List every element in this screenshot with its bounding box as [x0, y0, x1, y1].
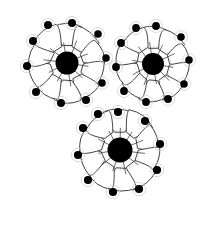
cell-nucleus [29, 37, 37, 45]
cell-nucleus [185, 56, 193, 64]
cell-nucleus [114, 108, 122, 116]
cell-nucleus [79, 124, 87, 132]
cell-nucleus [156, 140, 164, 148]
cell-nucleus [177, 33, 185, 41]
cell-nucleus [68, 19, 76, 27]
cell-nucleus [112, 63, 120, 71]
rosette-cluster-diagram [0, 0, 216, 226]
cell-nucleus [57, 99, 65, 107]
cell-nucleus [44, 21, 52, 29]
cell-nucleus [94, 110, 102, 118]
cell-nucleus [109, 188, 117, 196]
cell-nucleus [142, 98, 150, 106]
cell-nucleus [152, 22, 160, 30]
cell-nucleus [117, 39, 125, 47]
cell-nucleus [82, 96, 90, 104]
cell-nucleus [153, 166, 161, 174]
cell-nucleus [94, 30, 102, 38]
cell-nucleus [102, 54, 110, 62]
rosette-hub [56, 52, 79, 75]
cell-nucleus [32, 88, 40, 96]
cell-nucleus [141, 117, 149, 125]
rosette-hub [142, 53, 164, 75]
rosette-hub [108, 138, 133, 163]
cell-nucleus [74, 151, 82, 159]
cell-nucleus [120, 87, 128, 95]
cell-nucleus [135, 185, 143, 193]
cell-nucleus [180, 80, 188, 88]
cell-nucleus [98, 79, 106, 87]
cell-nucleus [164, 95, 172, 103]
cell-nucleus [132, 24, 140, 32]
figure-root [0, 0, 216, 226]
cell-nucleus [23, 62, 31, 70]
cell-nucleus [84, 176, 92, 184]
